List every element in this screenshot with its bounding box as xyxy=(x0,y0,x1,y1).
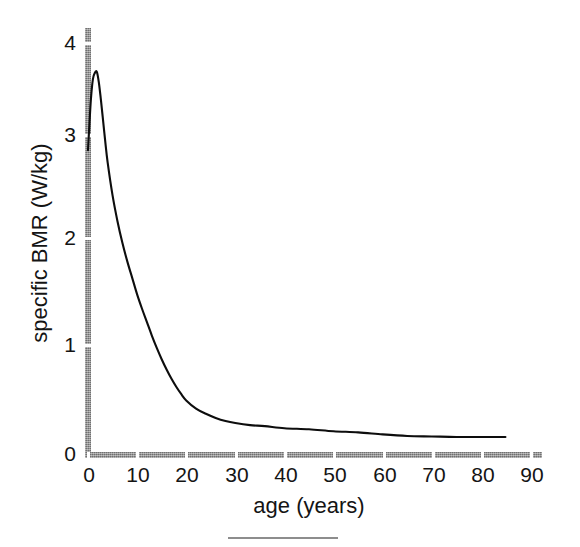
bmr-curve xyxy=(88,71,505,437)
plot-area xyxy=(0,0,580,547)
bottom-rule xyxy=(228,537,338,539)
bmr-vs-age-figure: 4 3 2 1 0 specific BMR (W/kg) 0 10 20 30… xyxy=(0,0,580,547)
